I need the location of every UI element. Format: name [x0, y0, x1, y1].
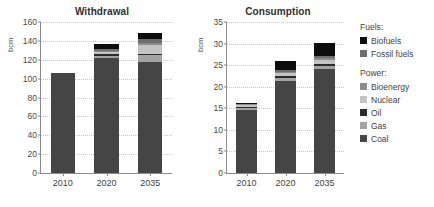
legend-swatch-icon [360, 135, 367, 142]
legend-label: Coal [371, 134, 388, 144]
bar-segment-biofuels [314, 43, 336, 56]
bar-segment-biofuels [275, 61, 297, 70]
y-tick-label-withdrawal: 140 [23, 36, 37, 46]
x-tick-mark [107, 173, 108, 176]
y-axis-unit-consumption: bcm [196, 38, 205, 52]
y-tick-label-consumption: 15 [214, 103, 223, 113]
bar-group-consumption [227, 22, 344, 173]
bar-segment-coal [236, 110, 258, 173]
bar-segment-coal [275, 81, 297, 173]
x-tick-label-withdrawal-2010: 2010 [53, 178, 73, 188]
legend-swatch-icon [360, 50, 367, 57]
legend-swatch-icon [360, 37, 367, 44]
legend-group-title: Power: [360, 68, 434, 78]
legend-label: Nuclear [371, 95, 400, 105]
y-tick-label-consumption: 35 [214, 17, 223, 27]
legend-item-oil: Oil [360, 106, 434, 119]
y-tick-label-consumption: 10 [214, 125, 223, 135]
plot-area-withdrawal: 020406080100120140160 201020202035 [40, 22, 172, 174]
y-tick-label-consumption: 30 [214, 39, 223, 49]
legend-swatch-icon [360, 83, 367, 90]
bar-consumption-2020 [275, 61, 297, 173]
legend-item-bioenergy: Bioenergy [360, 80, 434, 93]
legend-swatch-icon [360, 96, 367, 103]
legend-item-biofuels: Biofuels [360, 34, 434, 47]
x-tick-label-consumption-2010: 2010 [236, 178, 256, 188]
x-tick-label-withdrawal-2035: 2035 [140, 178, 160, 188]
legend-swatch-icon [360, 109, 367, 116]
bar-segment-coal [51, 73, 75, 173]
x-tick-label-consumption-2035: 2035 [314, 178, 334, 188]
figure-dual-stacked-bar-charts: Withdrawal bcm 020406080100120140160 201… [0, 0, 434, 207]
legend-item-fossil-fuels: Fossil fuels [360, 47, 434, 60]
panel-title-withdrawal: Withdrawal [0, 6, 190, 17]
bar-segment-coal [138, 62, 162, 173]
y-tick-label-consumption: 0 [218, 168, 223, 178]
x-tick-label-withdrawal-2020: 2020 [96, 178, 116, 188]
x-axis-withdrawal: 201020202035 [41, 173, 172, 195]
x-tick-mark [325, 173, 326, 176]
bar-group-withdrawal [41, 22, 172, 173]
bar-withdrawal-2010 [51, 73, 75, 173]
y-tick-label-withdrawal: 160 [23, 17, 37, 27]
x-tick-label-consumption-2020: 2020 [275, 178, 295, 188]
y-tick-label-consumption: 5 [218, 146, 223, 156]
legend-item-gas: Gas [360, 119, 434, 132]
x-tick-mark [63, 173, 64, 176]
legend-label: Gas [371, 121, 387, 131]
legend-label: Oil [371, 108, 381, 118]
y-tick-label-consumption: 25 [214, 60, 223, 70]
y-tick-label-withdrawal: 40 [28, 130, 37, 140]
bar-segment-nuclear [138, 45, 162, 53]
legend-group: Fuels:BiofuelsFossil fuels [360, 22, 434, 60]
y-tick-label-withdrawal: 120 [23, 55, 37, 65]
x-tick-mark [150, 173, 151, 176]
panel-title-consumption: Consumption [190, 6, 358, 17]
x-axis-consumption: 201020202035 [227, 173, 344, 195]
bar-withdrawal-2020 [94, 44, 118, 173]
legend-item-nuclear: Nuclear [360, 93, 434, 106]
y-tick-label-withdrawal: 100 [23, 74, 37, 84]
bar-consumption-2010 [236, 103, 258, 173]
x-tick-mark [286, 173, 287, 176]
y-tick-label-withdrawal: 60 [28, 111, 37, 121]
bar-segment-coal [314, 69, 336, 173]
bar-segment-coal [94, 58, 118, 173]
chart-legend: Fuels:BiofuelsFossil fuelsPower:Bioenerg… [360, 22, 434, 153]
bar-withdrawal-2035 [138, 33, 162, 173]
plot-area-consumption: 05101520253035 201020202035 [226, 22, 344, 174]
y-tick-label-withdrawal: 20 [28, 149, 37, 159]
legend-swatch-icon [360, 122, 367, 129]
x-tick-mark [247, 173, 248, 176]
legend-group-title: Fuels: [360, 22, 434, 32]
legend-label: Fossil fuels [371, 49, 414, 59]
y-tick-label-consumption: 20 [214, 82, 223, 92]
legend-group: Power:BioenergyNuclearOilGasCoal [360, 68, 434, 145]
bar-consumption-2035 [314, 43, 336, 173]
y-tick-label-withdrawal: 80 [28, 93, 37, 103]
y-tick-label-withdrawal: 0 [32, 168, 37, 178]
legend-label: Bioenergy [371, 82, 409, 92]
bar-segment-gas [138, 55, 162, 62]
legend-label: Biofuels [371, 36, 401, 46]
legend-item-coal: Coal [360, 132, 434, 145]
y-axis-unit-withdrawal: bcm [6, 38, 15, 52]
